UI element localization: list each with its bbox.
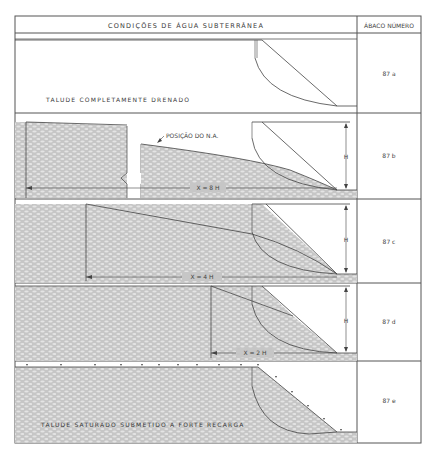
panel-d: H X = 2 H 87 d — [15, 286, 396, 361]
panel-b: H X = 8 H POSIÇÃO DO N.A. 87 b — [15, 122, 396, 198]
distance-label: X = 8 H — [196, 184, 219, 191]
height-label: H — [344, 153, 349, 160]
header-title: CONDIÇÕES DE ÁGUA SUBTERRÂNEA — [108, 21, 264, 30]
groundwater-conditions-figure: CONDIÇÕES DE ÁGUA SUBTERRÂNEA ÁBACO NÚME… — [0, 0, 436, 456]
header-column-label: ÁBACO NÚMERO — [364, 22, 414, 29]
height-label: H — [344, 236, 349, 243]
abaco-87b: 87 b — [382, 152, 396, 159]
panel-e: TALUDE SATURADO SUBMETIDO A FORTE RECARG… — [15, 364, 396, 443]
abaco-87c: 87 c — [383, 238, 396, 245]
panel-a-caption: TALUDE COMPLETAMENTE DRENADO — [45, 96, 190, 103]
distance-label: X = 2 H — [243, 349, 266, 356]
panel-a: TALUDE COMPLETAMENTE DRENADO 87 a — [15, 39, 396, 106]
abaco-87a: 87 a — [382, 70, 396, 77]
abaco-87e: 87 e — [382, 397, 396, 404]
water-table-annotation: POSIÇÃO DO N.A. — [166, 132, 218, 140]
abaco-87d: 87 d — [382, 318, 396, 325]
distance-label: X = 4 H — [190, 273, 213, 280]
panel-e-caption: TALUDE SATURADO SUBMETIDO A FORTE RECARG… — [40, 421, 245, 428]
failure-circle — [255, 58, 337, 106]
panel-c: H X = 4 H 87 c — [15, 204, 395, 283]
height-label: H — [344, 317, 349, 324]
